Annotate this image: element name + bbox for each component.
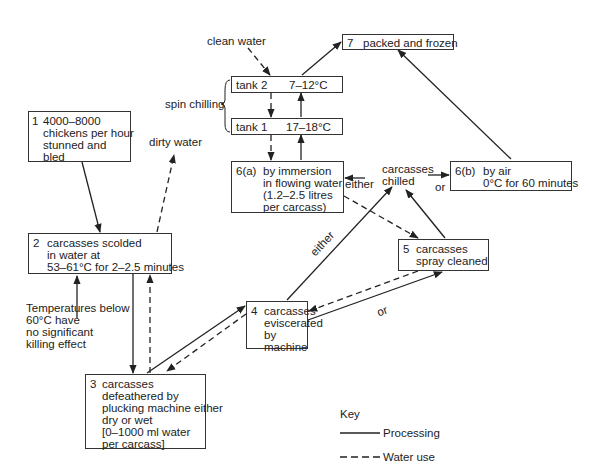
tank-temp: 7–12°C	[289, 79, 328, 91]
node-text: 4000–8000 chickens per hour stunned and …	[43, 115, 134, 163]
node-4-eviscerated: 4 carcasses eviscerated by machine	[246, 301, 308, 349]
node-text: packed and frozen	[363, 37, 458, 49]
node-text: carcasses defeathered by plucking machin…	[102, 378, 223, 450]
tank-temp: 17–18°C	[286, 121, 331, 133]
node-text: carcasses spray cleaned	[416, 243, 488, 267]
node-text: by immersion in flowing water (1.2–2.5 l…	[263, 165, 342, 213]
node-6a-immersion: 6(a) by immersion in flowing water (1.2–…	[231, 161, 344, 213]
either-label-6a: either	[345, 178, 374, 190]
node-number: 6(b)	[455, 165, 475, 177]
node-number: 1	[32, 115, 38, 127]
carcasses-chilled-label: carcasses chilled	[382, 163, 434, 187]
tank-2: tank 2 7–12°C	[231, 76, 343, 93]
temperature-note: Temperatures below 60°C have no signific…	[26, 302, 130, 350]
legend-title: Key	[340, 408, 360, 420]
clean-water-label: clean water	[207, 35, 266, 47]
node-number: 6(a)	[236, 165, 256, 177]
node-2-scalded: 2 carcasses scolded in water at 53–61°C …	[28, 233, 172, 274]
node-7-packed-frozen: 7 packed and frozen	[342, 34, 454, 50]
node-3-defeathered: 3 carcasses defeathered by plucking mach…	[85, 374, 206, 449]
node-text: carcasses scolded in water at 53–61°C fo…	[47, 237, 184, 273]
node-text: by air 0°C for 60 minutes	[483, 165, 578, 189]
tank-name: tank 2	[236, 79, 267, 91]
tank-name: tank 1	[236, 121, 267, 133]
node-6b-by-air: 6(b) by air 0°C for 60 minutes	[450, 161, 572, 191]
spin-chilling-label: spin chilling	[165, 98, 224, 110]
node-number: 3	[90, 378, 96, 390]
or-label-6b: or	[435, 181, 445, 193]
node-number: 5	[403, 243, 409, 255]
node-number: 2	[33, 237, 39, 249]
node-number: 7	[347, 37, 353, 49]
node-text: carcasses eviscerated by machine	[264, 305, 323, 353]
tank-1: tank 1 17–18°C	[231, 118, 343, 135]
node-number: 4	[251, 305, 257, 317]
node-5-spray-cleaned: 5 carcasses spray cleaned	[398, 239, 489, 271]
legend-water-use: Water use	[383, 451, 435, 463]
dirty-water-label: dirty water	[149, 136, 202, 148]
legend-processing: Processing	[383, 427, 440, 439]
node-1-stunned-bled: 1 4000–8000 chickens per hour stunned an…	[28, 111, 131, 162]
